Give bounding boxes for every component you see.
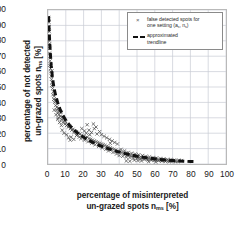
chart-figure: percentage of not detected un-grazed spo… <box>0 0 235 225</box>
x-axis-title-subscript: ms <box>156 205 164 211</box>
y-axis-title-subscript: ns <box>37 61 43 67</box>
y-tick-label: 50 <box>0 83 6 91</box>
legend-trendline-line1: approximated <box>147 32 178 38</box>
x-axis-title-line2-post: [%] <box>164 202 179 211</box>
x-tick-label: 100 <box>215 170 235 178</box>
y-axis-title: percentage of not detected un-grazed spo… <box>23 6 44 176</box>
y-tick-label: 60 <box>0 67 6 75</box>
dashed-line-icon <box>131 32 147 41</box>
y-tick-label: 40 <box>0 99 6 107</box>
legend-entry-trendline: approximated trendline <box>131 32 220 44</box>
y-tick-label: 20 <box>0 130 6 138</box>
legend-entry-scatter-label: false detected spots for one setting (as… <box>147 16 199 29</box>
legend-entry-scatter: × false detected spots for one setting (… <box>131 16 220 29</box>
y-tick-label: 0 <box>0 161 6 169</box>
x-axis-title-line2-pre: un-grazed spots n <box>86 202 156 211</box>
legend-scatter-line2: one setting (as, ns) <box>147 22 199 29</box>
y-axis-title-line2: un-grazed spots nns [%] <box>34 6 45 176</box>
x-axis-title-line2: un-grazed spots nms [%] <box>30 201 235 213</box>
legend-entry-trendline-label: approximated trendline <box>147 32 178 44</box>
chart-legend: × false detected spots for one setting (… <box>127 12 223 50</box>
x-axis-title-line1: percentage of misinterpreted <box>30 190 235 201</box>
y-tick-label: 90 <box>0 21 6 29</box>
y-tick-label: 30 <box>0 114 6 122</box>
y-axis-title-line2-post: [%] <box>34 46 43 61</box>
y-tick-label: 80 <box>0 36 6 44</box>
y-tick-label: 10 <box>0 145 6 153</box>
legend-scatter-line2-pre: one setting (a <box>147 22 178 28</box>
y-tick-label: 100 <box>0 5 6 13</box>
y-tick-label: 70 <box>0 52 6 60</box>
x-axis-title: percentage of misinterpreted un-grazed s… <box>30 190 235 213</box>
y-axis-title-line2-pre: un-grazed spots n <box>34 67 43 136</box>
legend-trendline-line2: trendline <box>147 39 178 45</box>
legend-scatter-sub2: s <box>185 25 187 29</box>
y-axis-title-line1: percentage of not detected <box>23 6 34 176</box>
x-marker-icon: × <box>131 16 147 25</box>
